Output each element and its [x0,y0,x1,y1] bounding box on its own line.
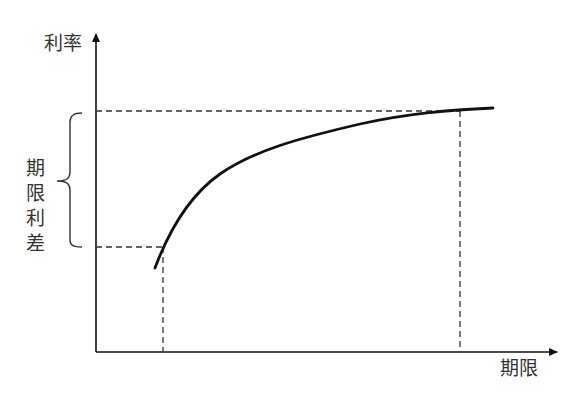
x-axis-label: 期限 [500,359,538,378]
y-axis-label: 利率 [44,34,82,53]
yield-curve [155,108,493,268]
yield-curve-diagram [0,0,583,403]
term-spread-label: 期限利差 [24,156,46,256]
spread-brace [57,113,82,247]
